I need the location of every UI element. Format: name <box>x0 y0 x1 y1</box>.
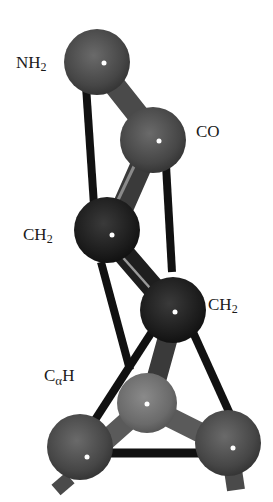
highlight-co <box>157 139 162 144</box>
highlight-bottom-left <box>85 455 90 460</box>
bar-ch2-calpha <box>101 262 130 370</box>
atoms <box>47 29 261 480</box>
highlight-bottom-right <box>231 446 236 451</box>
highlight-ch2-upper <box>110 233 115 238</box>
atom-bottom-left <box>47 414 113 480</box>
label-calpha-tail: H <box>62 366 74 385</box>
molecule-graphic <box>0 0 273 502</box>
label-ch2-upper-sub: 2 <box>47 232 53 246</box>
label-nh2-base: NH <box>16 53 41 72</box>
label-co: CO <box>196 123 220 140</box>
label-nh2: NH2 <box>16 54 47 73</box>
label-co-base: CO <box>196 122 220 141</box>
atom-bottom-right <box>195 410 261 476</box>
atom-ch2-lower <box>140 277 206 343</box>
label-ch2-lower-sub: 2 <box>232 302 238 316</box>
molecule-diagram: NH2 CO CH2 CH2 CαH <box>0 0 273 502</box>
atom-nh2 <box>64 29 130 95</box>
highlight-calpha <box>145 402 150 407</box>
label-ch2-upper: CH2 <box>23 226 53 245</box>
bar-co-ch2 <box>166 165 172 272</box>
label-calpha-base: C <box>44 366 55 385</box>
atom-co <box>120 107 186 173</box>
label-nh2-sub: 2 <box>41 60 47 74</box>
label-calpha-h: CαH <box>44 367 74 387</box>
atom-ch2-upper <box>74 197 140 263</box>
label-ch2-lower-base: CH <box>208 295 232 314</box>
bar-ch2-bottomright <box>192 330 230 414</box>
highlight-nh2 <box>102 61 107 66</box>
label-ch2-upper-base: CH <box>23 225 47 244</box>
bond-stub-left <box>56 478 70 490</box>
label-ch2-lower: CH2 <box>208 296 238 315</box>
highlight-ch2-lower <box>173 310 178 315</box>
